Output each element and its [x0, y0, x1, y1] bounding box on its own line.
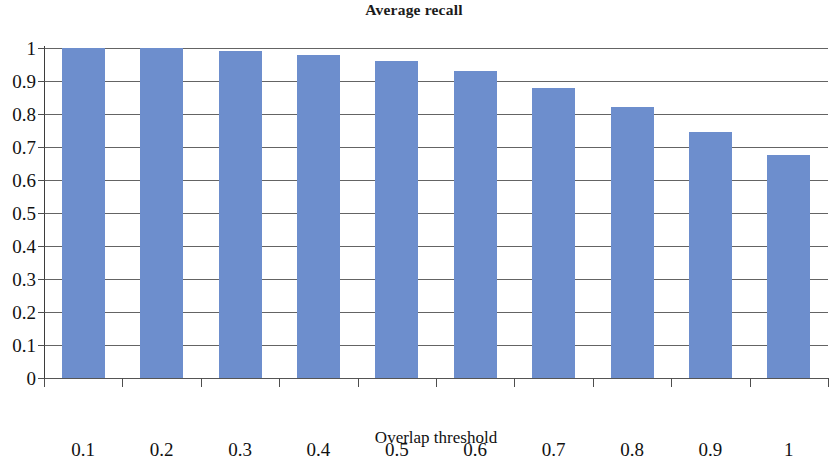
y-tick-label: 0.3 [0, 270, 36, 289]
chart-title: Average recall [0, 1, 828, 19]
y-tick-label: 0.2 [0, 303, 36, 322]
y-tick-label: 0.6 [0, 171, 36, 190]
x-tick-mark [671, 378, 672, 387]
x-tick-mark [358, 378, 359, 387]
x-tick-mark [122, 378, 123, 387]
y-tick-mark [38, 345, 44, 346]
y-tick-label: 0.1 [0, 336, 36, 355]
y-tick-label: 0 [0, 369, 36, 388]
bar [454, 71, 497, 378]
y-tick-label: 0.9 [0, 72, 36, 91]
bar [375, 61, 418, 378]
y-tick-label: 0.4 [0, 237, 36, 256]
x-axis-title: Overlap threshold [44, 428, 828, 448]
bar [297, 55, 340, 378]
x-tick-mark [44, 378, 45, 387]
y-tick-mark [38, 48, 44, 49]
x-tick-mark [750, 378, 751, 387]
y-tick-label: 0.8 [0, 105, 36, 124]
bar [689, 132, 732, 378]
y-tick-mark [38, 81, 44, 82]
x-tick-mark [514, 378, 515, 387]
y-tick-label: 0.7 [0, 138, 36, 157]
y-tick-mark [38, 147, 44, 148]
bar [62, 48, 105, 378]
bar [532, 88, 575, 378]
x-tick-mark [201, 378, 202, 387]
y-tick-mark [38, 114, 44, 115]
x-tick-mark [593, 378, 594, 387]
bar [767, 155, 810, 378]
bar [219, 51, 262, 378]
y-tick-mark [38, 246, 44, 247]
bar [611, 107, 654, 378]
y-tick-mark [38, 180, 44, 181]
x-tick-mark [436, 378, 437, 387]
y-tick-mark [38, 312, 44, 313]
y-tick-mark [38, 279, 44, 280]
y-tick-mark [38, 213, 44, 214]
x-tick-mark [279, 378, 280, 387]
y-tick-label: 1 [0, 39, 36, 58]
y-tick-label: 0.5 [0, 204, 36, 223]
bar [140, 48, 183, 378]
plot-area: 10.90.80.70.60.50.40.30.20.100.10.20.30.… [44, 48, 828, 378]
